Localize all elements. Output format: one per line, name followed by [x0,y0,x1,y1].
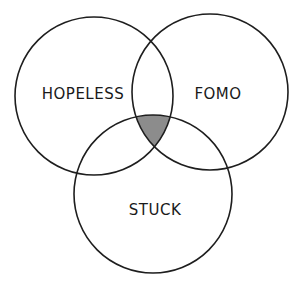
venn-diagram: HOPELESS FOMO STUCK [0,0,305,287]
label-fomo: FOMO [194,85,241,103]
venn-diagram-canvas: HOPELESS FOMO STUCK [0,0,305,287]
label-stuck: STUCK [129,201,182,219]
label-hopeless: HOPELESS [42,85,125,103]
